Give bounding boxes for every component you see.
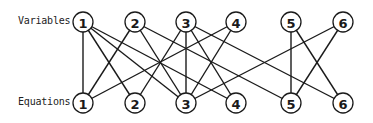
variable-node-label: 1	[78, 16, 87, 31]
equation-node-label: 2	[130, 97, 139, 112]
variable-node-2: 2	[125, 12, 145, 32]
equation-node-label: 6	[338, 97, 347, 112]
variable-node-6: 6	[333, 12, 353, 32]
variable-node-3: 3	[176, 12, 196, 32]
equation-node-5: 5	[281, 93, 301, 113]
equation-node-label: 1	[78, 97, 87, 112]
variable-node-5: 5	[281, 12, 301, 32]
equation-nodes: 123456	[73, 93, 353, 113]
variable-node-label: 4	[231, 16, 240, 31]
variable-node-label: 5	[286, 16, 295, 31]
variable-node-label: 2	[130, 16, 139, 31]
bipartite-graph: 123456 123456	[0, 0, 373, 123]
edge-v1-e3	[83, 22, 186, 103]
equation-node-label: 4	[231, 97, 240, 112]
variable-node-4: 4	[226, 12, 246, 32]
equation-node-label: 3	[181, 97, 190, 112]
equation-node-4: 4	[226, 93, 246, 113]
equation-node-1: 1	[73, 93, 93, 113]
equation-node-2: 2	[125, 93, 145, 113]
equation-node-label: 5	[286, 97, 295, 112]
variable-node-label: 6	[338, 16, 347, 31]
variable-node-label: 3	[181, 16, 190, 31]
equation-node-3: 3	[176, 93, 196, 113]
equation-node-6: 6	[333, 93, 353, 113]
variable-nodes: 123456	[73, 12, 353, 32]
edge-layer	[83, 22, 343, 103]
variable-node-1: 1	[73, 12, 93, 32]
